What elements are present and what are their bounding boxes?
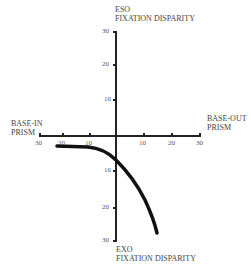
bottom-label-line2: FIXATION DISPARITY xyxy=(116,254,196,263)
left-label-line2: PRISM xyxy=(11,128,43,137)
y-tick-label: 20 xyxy=(102,203,109,211)
x-tick-label: 10 xyxy=(85,139,92,147)
y-tick-label: 30 xyxy=(102,27,109,35)
bottom-axis-label: EXO FIXATION DISPARITY xyxy=(116,245,196,263)
y-tick-label: 30 xyxy=(102,236,109,244)
y-tick-label: 10 xyxy=(104,95,111,103)
left-label-line1: BASE-IN xyxy=(11,119,43,128)
y-tick-label: 20 xyxy=(102,60,109,68)
x-tick-label: 10 xyxy=(139,139,146,147)
top-axis-label: ESO FIXATION DISPARITY xyxy=(115,5,195,23)
right-label-line2: PRISM xyxy=(207,123,247,132)
x-tick-label: 20 xyxy=(58,139,65,147)
x-tick-label: 30 xyxy=(35,139,42,147)
y-tick-label: 10 xyxy=(104,166,111,174)
data-curve xyxy=(57,146,157,233)
x-tick-label: 20 xyxy=(168,139,175,147)
x-tick-label: 30 xyxy=(196,139,203,147)
top-label-line2: FIXATION DISPARITY xyxy=(115,14,195,23)
right-axis-label: BASE-OUT PRISM xyxy=(207,114,247,132)
bottom-label-line1: EXO xyxy=(116,245,196,254)
right-label-line1: BASE-OUT xyxy=(207,114,247,123)
top-label-line1: ESO xyxy=(115,5,195,14)
left-axis-label: BASE-IN PRISM xyxy=(11,119,43,137)
